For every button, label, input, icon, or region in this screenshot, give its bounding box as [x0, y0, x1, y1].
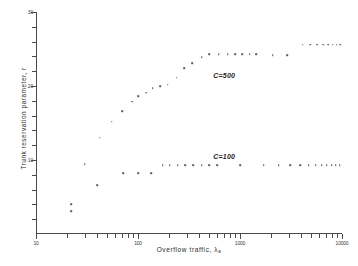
data-point [239, 164, 241, 166]
data-point [272, 54, 274, 56]
x-tick-minor [115, 234, 116, 238]
data-point [159, 85, 161, 87]
data-point [327, 44, 329, 46]
data-point [191, 62, 193, 64]
x-tick-major [36, 234, 37, 239]
x-tick-minor [301, 234, 302, 238]
data-point [263, 164, 265, 166]
x-tick-minor [235, 234, 236, 238]
y-tick-minor [32, 56, 36, 57]
data-point [97, 184, 99, 186]
x-axis-title-text: Overflow traffic, λ [157, 246, 219, 253]
x-tick-minor [271, 234, 272, 238]
x-tick-minor [332, 234, 333, 238]
data-point [278, 164, 280, 166]
series-label-c-100: C=100 [213, 152, 235, 159]
data-point [70, 210, 72, 212]
data-point [176, 77, 178, 79]
data-point [184, 67, 186, 69]
x-tick-minor [128, 234, 129, 238]
x-tick-minor [107, 234, 108, 238]
series-label-c-500: C=500 [213, 71, 235, 78]
data-point [99, 137, 101, 139]
x-tick-minor [187, 234, 188, 238]
data-point [326, 164, 328, 166]
x-tick-major [138, 234, 139, 239]
x-tick-minor [319, 234, 320, 238]
x-tick-minor [326, 234, 327, 238]
y-tick-minor [32, 42, 36, 43]
y-tick-minor [32, 204, 36, 205]
data-point [217, 164, 219, 166]
y-tick-minor [32, 130, 36, 131]
data-point [331, 164, 333, 166]
y-tick-label: 20 [28, 83, 33, 89]
y-tick-minor [32, 145, 36, 146]
x-tick-minor [85, 234, 86, 238]
data-point [256, 53, 258, 55]
x-tick-minor [337, 234, 338, 238]
x-tick-minor [133, 234, 134, 238]
data-point [111, 121, 113, 123]
data-point [339, 164, 341, 166]
x-tick-minor [97, 234, 98, 238]
x-tick-minor [169, 234, 170, 238]
scatter-chart-figure: 102030 10100100010000 C=500C=100 Overflo… [0, 0, 358, 266]
x-tick-minor [209, 234, 210, 238]
data-point [177, 164, 179, 166]
data-point [335, 164, 337, 166]
data-point [152, 87, 154, 89]
data-point [249, 53, 251, 55]
x-tick-minor [217, 234, 218, 238]
data-point [321, 164, 323, 166]
data-point [286, 54, 288, 56]
data-point [84, 164, 86, 166]
x-tick-minor [230, 234, 231, 238]
data-point [336, 44, 338, 46]
data-point [137, 173, 139, 175]
data-point [121, 110, 123, 112]
data-point [145, 92, 147, 94]
y-tick-minor [32, 175, 36, 176]
data-point [235, 53, 237, 55]
data-point [308, 164, 310, 166]
data-point [322, 44, 324, 46]
x-tick-minor [311, 234, 312, 238]
y-tick-minor [32, 71, 36, 72]
y-tick-minor [32, 27, 36, 28]
y-tick-minor [32, 101, 36, 102]
x-tick-minor [289, 234, 290, 238]
x-axis-title: Overflow traffic, λa [36, 246, 342, 254]
data-point [162, 164, 164, 166]
data-point [227, 53, 229, 55]
data-point [201, 164, 203, 166]
x-tick-minor [122, 234, 123, 238]
data-point [167, 84, 169, 86]
y-tick-minor [32, 190, 36, 191]
data-point [169, 164, 171, 166]
data-point [299, 164, 301, 166]
data-point [241, 53, 243, 55]
data-point [201, 56, 203, 58]
data-point [123, 173, 125, 175]
data-point [208, 53, 210, 55]
data-point [193, 164, 195, 166]
data-point [137, 96, 139, 98]
data-point [302, 44, 304, 46]
data-point [70, 204, 72, 206]
x-tick-minor [199, 234, 200, 238]
data-point [208, 164, 210, 166]
data-point [315, 164, 317, 166]
data-point [289, 164, 291, 166]
x-tick-minor [67, 234, 68, 238]
x-tick-major [240, 234, 241, 239]
data-point [150, 173, 152, 175]
y-tick-minor [32, 219, 36, 220]
x-tick-major [342, 234, 343, 239]
data-point [339, 44, 341, 46]
data-point [132, 101, 134, 103]
data-point [316, 44, 318, 46]
y-tick-label: 30 [28, 9, 33, 15]
plot-area: 102030 10100100010000 C=500C=100 [36, 12, 342, 234]
y-axis-title: Trunk reservation parameter, r [20, 34, 27, 204]
